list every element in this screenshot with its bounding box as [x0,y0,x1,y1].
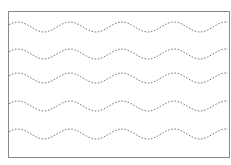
wavy-line-1 [9,22,228,32]
worksheet-border [9,12,230,158]
tracing-worksheet [0,0,231,165]
wavy-line-4 [9,101,228,111]
wavy-line-3 [9,73,228,83]
wavy-line-5 [9,129,228,139]
wavy-line-2 [9,49,228,59]
wavy-tracing-lines [9,22,228,139]
